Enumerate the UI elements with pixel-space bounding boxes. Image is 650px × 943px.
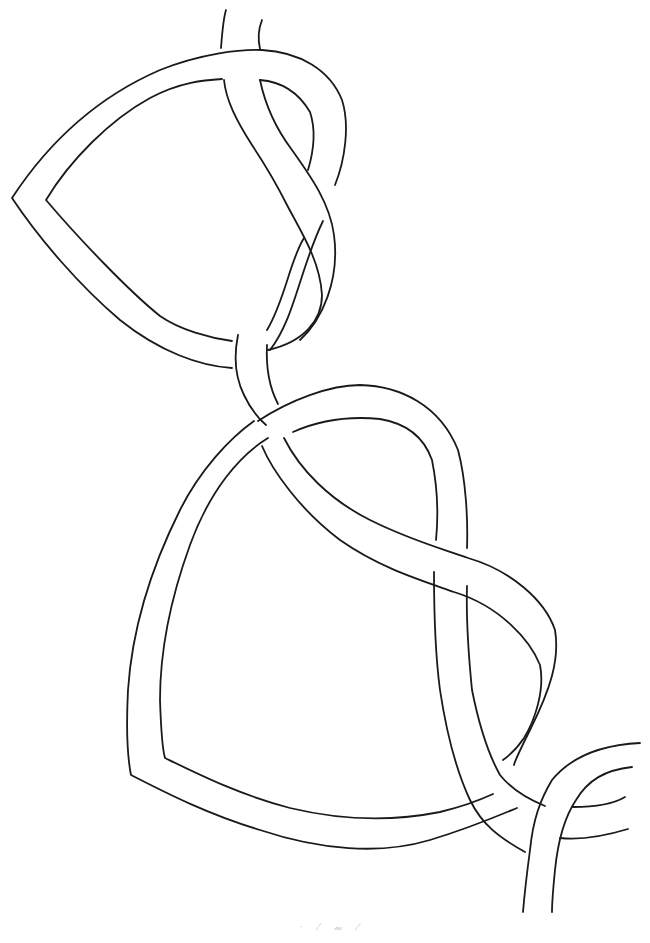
celtic-knot-drawing xyxy=(0,0,650,943)
lower-loop xyxy=(127,385,545,852)
bottom-right-strand xyxy=(523,743,640,912)
artist-signature: · ⁄ 𝓂 ⁄ xyxy=(300,922,380,940)
central-strand xyxy=(221,10,556,765)
upper-loop xyxy=(12,50,346,368)
